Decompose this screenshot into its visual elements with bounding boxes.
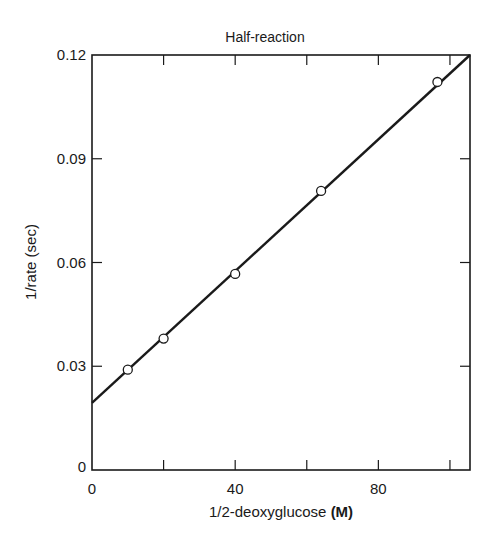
y-tick-label: 0.12 (57, 46, 86, 63)
data-point-marker (433, 77, 442, 86)
x-axis-label-text: 1/2-deoxyglucose (209, 503, 327, 520)
x-axis-label-unit: (M) (331, 503, 354, 520)
data-point-marker (317, 186, 326, 195)
y-tick-label: 0.03 (57, 357, 86, 374)
regression-line (92, 55, 470, 403)
axis-ticks (92, 55, 470, 470)
plot-frame (92, 55, 470, 470)
x-tick-label: 80 (370, 480, 387, 497)
x-axis-label: 1/2-deoxyglucose (M) (209, 503, 353, 520)
chart-title: Half-reaction (225, 29, 304, 45)
data-point-marker (123, 365, 132, 374)
y-tick-label: 0.09 (57, 150, 86, 167)
x-tick-label: 0 (88, 480, 96, 497)
y-tick-label: 0 (78, 458, 86, 475)
x-tick-label: 40 (227, 480, 244, 497)
data-point-marker (231, 269, 240, 278)
chart: Half-reaction 0408000.030.060.090.12 1/2… (0, 0, 496, 547)
y-tick-label: 0.06 (57, 254, 86, 271)
data-point-marker (159, 334, 168, 343)
y-axis-label: 1/rate (sec) (22, 224, 39, 300)
axis-tick-labels: 0408000.030.060.090.12 (57, 46, 387, 497)
